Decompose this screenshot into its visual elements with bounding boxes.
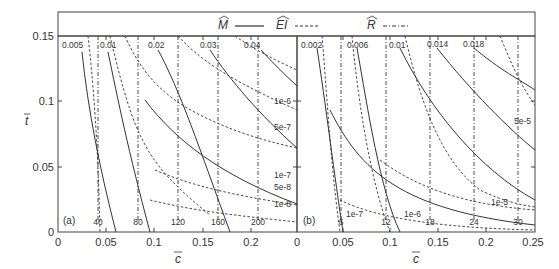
x-tick-label: 0.25: [522, 236, 543, 248]
x-axis-title-b: c: [412, 252, 420, 266]
x-tick-label: 0.15: [427, 236, 448, 248]
r-label-b: 12: [381, 217, 391, 227]
ei-label-b: 1e-7: [346, 209, 363, 219]
x-axis-a: [106, 36, 251, 232]
x-tick-label: 0.05: [332, 236, 353, 248]
m-label-a: 0.02: [148, 40, 165, 50]
legend-box: [58, 12, 535, 36]
x-tick-label: 0.2: [478, 236, 493, 248]
y-tick-label: 0: [48, 226, 54, 238]
y-axis-title: t: [24, 114, 30, 128]
x-tick-label: 0.1: [382, 236, 397, 248]
panel-a: [82, 36, 297, 232]
ei-label-a: 5e-8: [274, 182, 291, 192]
figure: M EI R 0.15 0.1 0.05 0 t 0 0.05 0.1 0.15…: [0, 0, 559, 269]
r-label-a: 200: [251, 217, 265, 227]
m-label-a: 0.04: [244, 40, 261, 50]
legend: M EI R: [218, 16, 410, 32]
m-curves-a: [82, 50, 297, 232]
x-axis-title-a: c: [174, 252, 182, 266]
panel-b-label: (b): [303, 215, 315, 226]
x-tick-label: 0.1: [146, 236, 161, 248]
x-tick-label: 0: [294, 236, 300, 248]
r-label-b: 24: [469, 217, 479, 227]
ei-label-a: 1e-8: [274, 199, 291, 209]
m-label-a: 0.005: [62, 40, 84, 50]
m-label-a: 0.03: [200, 40, 217, 50]
legend-m-label: M: [218, 18, 228, 32]
ei-label-a: 5e-7: [274, 122, 291, 132]
legend-r-label: R: [367, 18, 376, 32]
x-tick-label: 0.15: [192, 236, 213, 248]
ei-curves-a: [88, 36, 297, 232]
ei-label-a: 1e-6: [274, 96, 291, 106]
ei-label-b: 1e-5: [491, 197, 508, 207]
ei-label-b: 1e-6: [404, 209, 421, 219]
x-tick-label: 0.05: [95, 236, 116, 248]
r-label-a: 40: [93, 217, 103, 227]
r-label-a: 120: [171, 217, 185, 227]
m-label-b: 0.01: [389, 40, 406, 50]
y-tick-label: 0.1: [39, 95, 54, 107]
r-lines-b: [341, 36, 518, 222]
legend-ei-label: EI: [276, 18, 288, 32]
r-label-b: 6: [339, 217, 344, 227]
r-label-a: 80: [133, 217, 143, 227]
svg-text:c: c: [413, 252, 419, 266]
r-label-b: 30: [513, 217, 523, 227]
r-label-a: 160: [211, 217, 225, 227]
svg-text:t: t: [25, 114, 29, 128]
x-axis-b: [343, 36, 486, 232]
m-label-b: 0.014: [427, 39, 449, 49]
panel-a-label: (a): [63, 215, 75, 226]
m-label-b: 0.002: [301, 40, 323, 50]
y-tick-label: 0.15: [33, 30, 54, 42]
x-tick-label: 0: [55, 236, 61, 248]
ei-label-b: 5e-5: [514, 116, 531, 126]
m-label-b: 0.006: [347, 40, 369, 50]
r-label-b: 18: [425, 217, 435, 227]
m-label-a: 0.01: [100, 40, 117, 50]
m-label-b: 0.018: [463, 39, 485, 49]
x-tick-label: 0.2: [243, 236, 258, 248]
ei-label-a: 1e-7: [274, 170, 291, 180]
svg-text:c: c: [175, 252, 181, 266]
y-tick-label: 0.05: [33, 161, 54, 173]
